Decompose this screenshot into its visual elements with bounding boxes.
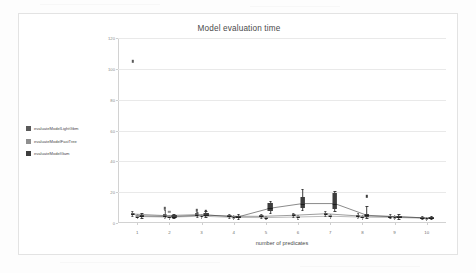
median-mark	[236, 217, 241, 218]
x-tick-mark	[298, 223, 299, 225]
whisker-cap	[394, 219, 395, 220]
x-tick-label: 1	[136, 230, 138, 235]
whisker-cap	[421, 219, 423, 220]
box-plot	[260, 38, 263, 223]
y-tick-label: 20	[110, 190, 115, 195]
whisker-cap	[297, 219, 298, 220]
x-tick-label: 5	[265, 230, 267, 235]
box-plot	[429, 38, 434, 223]
whisker-cap	[366, 218, 369, 219]
x-tick-mark	[169, 223, 170, 225]
legend-item[interactable]: evaluateModelGam	[26, 151, 104, 156]
whisker-cap	[228, 218, 230, 219]
box-plot	[361, 38, 364, 223]
x-tick-label: 7	[329, 230, 331, 235]
x-tick-mark	[427, 223, 428, 225]
box-plot	[136, 38, 139, 223]
box-plot	[268, 38, 273, 223]
median-mark	[228, 216, 231, 217]
median-mark	[365, 215, 370, 216]
whisker-cap	[173, 218, 176, 219]
box-plot	[329, 38, 332, 223]
median-mark	[429, 218, 434, 219]
x-axis-title: number of predicates	[118, 240, 446, 246]
y-tick-mark	[116, 223, 118, 224]
median-mark	[204, 215, 209, 216]
median-mark	[163, 216, 166, 217]
whisker-cap	[141, 218, 144, 219]
median-mark	[136, 217, 139, 218]
x-tick-label: 2	[168, 230, 170, 235]
chart-page: Model evaluation time evaluateModelLight…	[0, 0, 476, 273]
median-mark	[324, 214, 327, 215]
box-body	[268, 203, 273, 211]
whisker-cap	[237, 219, 240, 220]
y-tick-label: 0	[113, 221, 115, 226]
box-plot	[265, 38, 268, 223]
median-mark	[425, 218, 428, 219]
whisker-cap	[333, 211, 336, 212]
x-tick-label: 10	[424, 230, 429, 235]
whisker-cap	[196, 212, 198, 213]
median-mark	[168, 217, 171, 218]
legend-item[interactable]: evaluateModelLightGbm	[26, 126, 104, 131]
outlier-point	[132, 60, 134, 62]
outlier-point	[366, 195, 368, 197]
legend-item[interactable]: evaluateModelFastTree	[26, 139, 104, 144]
box-plot	[163, 38, 166, 223]
box-body	[332, 193, 337, 209]
median-mark	[300, 204, 305, 205]
median-mark	[421, 218, 424, 219]
whisker-cap	[398, 219, 401, 220]
box-plot	[332, 38, 337, 223]
median-mark	[332, 204, 337, 205]
y-tick-label: 60	[110, 128, 115, 133]
whisker-cap	[269, 213, 272, 214]
y-tick-label: 100	[108, 66, 115, 71]
whisker-cap	[132, 216, 134, 217]
x-tick-mark	[330, 223, 331, 225]
chart-legend: evaluateModelLightGbm evaluateModelFastT…	[26, 126, 104, 164]
whisker-cap	[357, 218, 359, 219]
plot-area: 020406080100120 12345678910 number of pr…	[118, 38, 446, 223]
box-plot	[131, 38, 134, 223]
outlier-point	[168, 210, 170, 212]
whisker-cap	[325, 216, 327, 217]
x-tick-label: 3	[200, 230, 202, 235]
x-tick-mark	[362, 223, 363, 225]
box-plot	[300, 38, 305, 223]
median-mark	[260, 216, 263, 217]
median-mark	[388, 217, 391, 218]
whisker-cap	[330, 218, 331, 219]
legend-item-label: evaluateModelGam	[34, 151, 70, 156]
median-mark	[232, 217, 235, 218]
y-tick-label: 40	[110, 159, 115, 164]
outlier-point	[205, 209, 207, 211]
x-tick-mark	[395, 223, 396, 225]
whisker-cap	[205, 217, 208, 218]
whisker-cap	[426, 220, 427, 221]
box-plot	[388, 38, 391, 223]
median-mark	[297, 217, 300, 218]
whisker-cap	[301, 210, 304, 211]
median-mark	[268, 208, 273, 209]
whisker-cap	[333, 191, 336, 192]
chart-title: Model evaluation time	[19, 24, 459, 33]
median-mark	[393, 217, 396, 218]
median-mark	[397, 217, 402, 218]
box-plot	[236, 38, 241, 223]
median-mark	[361, 217, 364, 218]
legend-item-label: evaluateModelLightGbm	[34, 126, 78, 131]
median-mark	[139, 216, 144, 217]
x-tick-label: 6	[297, 230, 299, 235]
box-plot	[200, 38, 203, 223]
chart-card: Model evaluation time evaluateModelLight…	[18, 13, 458, 255]
median-mark	[292, 215, 295, 216]
box-plot	[393, 38, 396, 223]
whisker-cap	[169, 219, 170, 220]
legend-swatch-icon	[26, 151, 31, 156]
whisker-cap	[137, 218, 138, 219]
whisker-cap	[164, 218, 166, 219]
whisker-cap	[362, 219, 363, 220]
x-tick-label: 9	[393, 230, 395, 235]
